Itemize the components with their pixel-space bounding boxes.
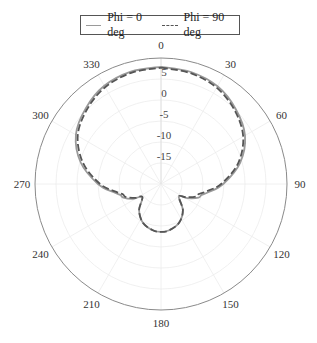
polar-chart: 030609012015018021024027030033050-5-10-1… [0, 0, 317, 343]
radial-tick-label: -5 [159, 108, 169, 120]
grid-spoke [52, 121, 161, 184]
grid-spoke [52, 184, 161, 247]
angle-tick-label: 90 [295, 178, 307, 190]
radial-tick-label: -10 [157, 129, 172, 141]
legend-label: Phi = 90 deg [184, 10, 235, 40]
angle-tick-label: 30 [225, 58, 237, 70]
legend-item-phi0: Phi = 0 deg [86, 10, 153, 40]
radial-tick-label: 0 [161, 87, 167, 99]
solid-line-icon [86, 25, 101, 26]
legend: Phi = 0 deg Phi = 90 deg [80, 15, 240, 35]
angle-tick-label: 330 [83, 58, 100, 70]
angle-tick-label: 240 [32, 248, 49, 260]
grid-spoke [161, 121, 270, 184]
radial-tick-label: 5 [161, 66, 167, 78]
angle-tick-label: 0 [158, 39, 164, 51]
angle-tick-label: 270 [14, 178, 31, 190]
angle-tick-label: 210 [83, 298, 100, 310]
radial-tick-label: -15 [157, 150, 172, 162]
angle-tick-label: 300 [32, 109, 49, 121]
legend-item-phi90: Phi = 90 deg [162, 10, 235, 40]
dashed-line-icon [162, 25, 177, 26]
legend-label: Phi = 0 deg [107, 10, 153, 40]
angle-tick-label: 180 [153, 317, 170, 329]
angle-tick-label: 60 [276, 109, 288, 121]
grid-spoke [98, 75, 161, 184]
grid-spoke [161, 184, 224, 293]
grid-spoke [98, 184, 161, 293]
grid-spoke [161, 184, 270, 247]
angle-tick-label: 150 [222, 298, 239, 310]
angle-tick-label: 120 [273, 248, 290, 260]
